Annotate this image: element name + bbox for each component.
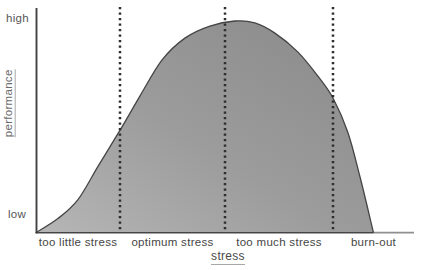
- x-axis-title-text: stress: [211, 249, 245, 265]
- region-label-too-little-stress: too little stress: [36, 236, 120, 248]
- y-axis-title-text: performance: [2, 69, 16, 137]
- region-label-optimum-stress: optimum stress: [120, 236, 225, 248]
- region-label-too-much-stress: too much stress: [225, 236, 333, 248]
- y-tick-label-high: high: [6, 12, 29, 25]
- region-label-burn-out: burn-out: [333, 236, 414, 248]
- y-tick-label-low: low: [8, 208, 26, 221]
- chart-canvas: [0, 0, 423, 270]
- y-axis-title: performance: [2, 64, 15, 142]
- stress-performance-chart: high low performance too little stress o…: [0, 0, 423, 270]
- x-axis-title: stress: [39, 250, 417, 263]
- performance-curve-area: [36, 21, 373, 233]
